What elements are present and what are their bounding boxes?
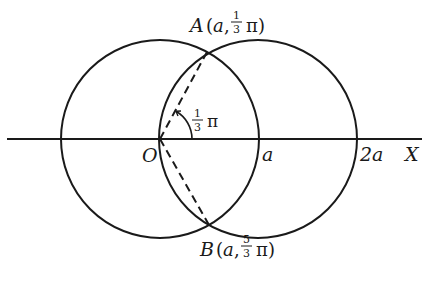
label-2a: 2a xyxy=(359,143,383,165)
label-axis-X: X xyxy=(403,143,420,165)
svg-text:a: a xyxy=(223,239,234,260)
svg-text:(: ( xyxy=(206,15,213,36)
svg-text:,: , xyxy=(234,239,240,260)
svg-text:π: π xyxy=(207,111,218,131)
dashed-radius-OB xyxy=(160,139,209,225)
svg-text:1: 1 xyxy=(194,107,201,120)
svg-text:): ) xyxy=(258,15,265,36)
label-A-name: A xyxy=(188,14,204,36)
svg-text:1: 1 xyxy=(233,9,240,22)
polar-diagram: A ( a , 1 3 π ) 1 3 π O a 2a X B ( a , 5… xyxy=(0,0,427,285)
label-a: a xyxy=(262,143,273,165)
svg-text:,: , xyxy=(224,15,230,36)
svg-text:3: 3 xyxy=(243,247,250,260)
label-angle: 1 3 π xyxy=(192,107,218,134)
label-origin-O: O xyxy=(142,144,158,166)
label-point-A: A ( a , 1 3 π ) xyxy=(188,9,265,36)
svg-text:π: π xyxy=(256,239,268,260)
svg-text:π: π xyxy=(246,15,258,36)
svg-text:a: a xyxy=(213,15,224,36)
svg-text:(: ( xyxy=(216,239,223,260)
svg-text:5: 5 xyxy=(243,233,250,246)
svg-text:3: 3 xyxy=(194,121,201,134)
svg-text:3: 3 xyxy=(233,23,240,36)
svg-text:): ) xyxy=(268,239,275,260)
label-B-name: B xyxy=(199,238,214,260)
